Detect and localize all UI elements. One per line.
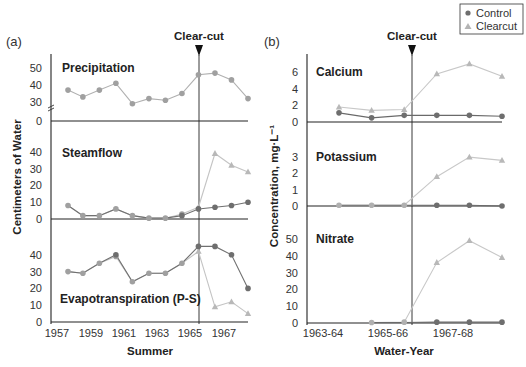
series-control-line bbox=[68, 246, 248, 288]
legend-control-marker-icon bbox=[465, 10, 470, 15]
subplot-title: Precipitation bbox=[62, 61, 135, 75]
data-point-circle-icon bbox=[245, 286, 251, 292]
data-point-circle-icon bbox=[146, 215, 152, 221]
clearcut-arrow-icon bbox=[408, 45, 416, 56]
series-control-line bbox=[339, 113, 502, 118]
svg-text:1: 1 bbox=[292, 184, 298, 196]
legend-control-label: Control bbox=[476, 7, 511, 19]
svg-text:1963: 1963 bbox=[145, 327, 169, 339]
data-point-circle-icon bbox=[401, 319, 407, 325]
svg-text:50: 50 bbox=[30, 62, 42, 74]
data-point-circle-icon bbox=[369, 202, 375, 208]
data-point-circle-icon bbox=[434, 202, 440, 208]
svg-text:10: 10 bbox=[286, 300, 298, 312]
subplot-title: Potassium bbox=[316, 150, 377, 164]
data-point-triangle-icon bbox=[499, 254, 505, 260]
data-point-circle-icon bbox=[179, 260, 185, 266]
svg-text:1957: 1957 bbox=[45, 327, 69, 339]
data-point-triangle-icon bbox=[228, 298, 234, 304]
data-point-circle-icon bbox=[163, 270, 169, 276]
svg-text:0: 0 bbox=[292, 317, 298, 329]
clearcut-arrow-icon bbox=[195, 45, 203, 56]
data-point-circle-icon bbox=[163, 215, 169, 221]
svg-text:40: 40 bbox=[30, 249, 42, 261]
data-point-circle-icon bbox=[245, 96, 251, 102]
data-point-circle-icon bbox=[97, 260, 103, 266]
svg-text:2: 2 bbox=[292, 167, 298, 179]
data-point-triangle-icon bbox=[466, 237, 472, 243]
data-point-circle-icon bbox=[401, 113, 407, 119]
svg-text:40: 40 bbox=[30, 146, 42, 158]
svg-text:0: 0 bbox=[36, 316, 42, 328]
data-point-circle-icon bbox=[499, 319, 505, 325]
data-point-circle-icon bbox=[146, 270, 152, 276]
svg-text:0: 0 bbox=[36, 115, 42, 127]
data-point-circle-icon bbox=[130, 101, 136, 107]
data-point-circle-icon bbox=[336, 110, 342, 116]
data-point-circle-icon bbox=[212, 244, 218, 250]
data-point-circle-icon bbox=[97, 87, 103, 93]
data-point-circle-icon bbox=[179, 91, 185, 97]
legend-clearcut-label: Clearcut bbox=[476, 20, 517, 32]
data-point-triangle-icon bbox=[336, 104, 342, 110]
data-point-triangle-icon bbox=[466, 61, 472, 67]
data-point-circle-icon bbox=[499, 113, 505, 119]
series-shared bbox=[65, 70, 251, 106]
data-point-circle-icon bbox=[65, 87, 71, 93]
data-point-circle-icon bbox=[434, 319, 440, 325]
svg-text:10: 10 bbox=[30, 299, 42, 311]
data-point-circle-icon bbox=[196, 244, 202, 250]
panel-a-ylabel: Centimeters of Water bbox=[11, 119, 23, 235]
svg-text:1961: 1961 bbox=[112, 327, 136, 339]
data-point-circle-icon bbox=[229, 77, 235, 83]
data-point-triangle-icon bbox=[434, 259, 440, 265]
data-point-circle-icon bbox=[163, 98, 169, 104]
data-point-circle-icon bbox=[369, 115, 375, 121]
svg-text:0: 0 bbox=[36, 213, 42, 225]
data-point-circle-icon bbox=[65, 203, 71, 209]
data-point-circle-icon bbox=[80, 94, 86, 100]
data-point-circle-icon bbox=[401, 202, 407, 208]
data-point-circle-icon bbox=[196, 72, 202, 78]
svg-text:0: 0 bbox=[292, 200, 298, 212]
svg-text:4: 4 bbox=[292, 83, 298, 95]
panel-b-xlabel: Water-Year bbox=[374, 345, 434, 357]
svg-text:1963-64: 1963-64 bbox=[303, 327, 343, 339]
subplot-title: Calcium bbox=[316, 65, 363, 79]
data-point-circle-icon bbox=[80, 213, 86, 219]
svg-text:2: 2 bbox=[292, 99, 298, 111]
data-point-circle-icon bbox=[65, 269, 71, 275]
svg-text:1967-68: 1967-68 bbox=[433, 327, 473, 339]
data-point-circle-icon bbox=[336, 202, 342, 208]
data-point-circle-icon bbox=[113, 81, 119, 87]
svg-text:30: 30 bbox=[30, 96, 42, 108]
panel-a-xticks: 1957 1959 1961 1963 1965 1967 bbox=[45, 327, 236, 339]
svg-text:30: 30 bbox=[286, 267, 298, 279]
svg-text:20: 20 bbox=[30, 179, 42, 191]
svg-text:10: 10 bbox=[30, 196, 42, 208]
data-point-circle-icon bbox=[212, 204, 218, 210]
data-point-triangle-icon bbox=[212, 150, 218, 156]
series-clearcut bbox=[68, 153, 248, 218]
svg-text:6: 6 bbox=[292, 66, 298, 78]
data-point-circle-icon bbox=[196, 206, 202, 212]
data-point-circle-icon bbox=[467, 202, 473, 208]
panel-b-ylabel: Concentration, mg·L⁻¹ bbox=[268, 125, 280, 247]
svg-text:0: 0 bbox=[292, 116, 298, 128]
data-point-triangle-icon bbox=[228, 162, 234, 168]
data-point-circle-icon bbox=[229, 203, 235, 209]
panel-b-xticks: 1963-64 1965-66 1967-68 bbox=[303, 327, 473, 339]
svg-text:30: 30 bbox=[30, 266, 42, 278]
data-point-circle-icon bbox=[130, 279, 136, 285]
panel-a-clearcut-label: Clear-cut bbox=[174, 30, 224, 42]
svg-text:30: 30 bbox=[30, 163, 42, 175]
subplot-title: Steamflow bbox=[62, 146, 123, 160]
svg-text:20: 20 bbox=[286, 283, 298, 295]
figure: (a) (b) Clear-cut Clear-cut Control Clea… bbox=[0, 0, 526, 367]
series-clearcut-line bbox=[372, 241, 502, 323]
panel-b-label: (b) bbox=[264, 34, 280, 49]
svg-text:3: 3 bbox=[292, 151, 298, 163]
subplot-title: Evapotranspiration (P-S) bbox=[60, 292, 201, 306]
data-point-circle-icon bbox=[97, 213, 103, 219]
svg-text:1965: 1965 bbox=[178, 327, 202, 339]
